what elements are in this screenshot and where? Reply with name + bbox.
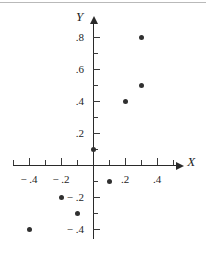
y-tick — [93, 117, 98, 118]
data-point — [59, 195, 64, 200]
scatter-plot-figure: X Y − .4− .2.2.4.8.6.4.2− .2− .4 — [0, 0, 206, 260]
data-point — [123, 99, 128, 104]
x-tick — [61, 158, 62, 165]
data-point — [91, 147, 96, 152]
x-tick — [13, 160, 14, 165]
plot-area: X Y − .4− .2.2.4.8.6.4.2− .2− .4 — [0, 0, 206, 260]
y-tick — [93, 53, 98, 54]
x-tick — [157, 158, 158, 165]
y-tick — [93, 37, 100, 38]
x-tick — [141, 160, 142, 165]
data-point — [139, 35, 144, 40]
x-tick — [125, 158, 126, 165]
y-axis-label: Y — [76, 10, 83, 23]
x-tick-label: .2 — [121, 174, 129, 185]
x-axis-label: X — [187, 155, 195, 168]
y-tick-label: .6 — [76, 64, 84, 75]
y-tick-label: .8 — [76, 32, 84, 43]
y-tick — [93, 181, 98, 182]
x-tick — [77, 160, 78, 165]
data-point — [75, 211, 80, 216]
y-tick — [93, 197, 100, 198]
x-tick — [173, 160, 174, 165]
x-axis-line — [13, 165, 176, 166]
y-axis-arrow — [90, 16, 98, 24]
y-tick — [93, 85, 98, 86]
data-point — [107, 179, 112, 184]
y-tick-label: .2 — [76, 128, 84, 139]
y-tick-label: − .4 — [67, 224, 84, 235]
y-tick-label: .4 — [76, 96, 84, 107]
x-tick — [109, 160, 110, 165]
y-tick — [93, 229, 100, 230]
x-tick-label: − .4 — [20, 174, 37, 185]
x-tick — [45, 160, 46, 165]
x-tick-label: − .2 — [52, 174, 69, 185]
y-tick — [93, 69, 100, 70]
y-axis-line — [93, 24, 94, 238]
y-tick-label: − .2 — [67, 192, 84, 203]
data-point — [139, 83, 144, 88]
x-tick-label: .4 — [153, 174, 161, 185]
x-tick — [29, 158, 30, 165]
x-axis-arrow — [176, 162, 184, 170]
y-tick — [93, 133, 100, 134]
data-point — [27, 227, 32, 232]
y-tick — [93, 101, 100, 102]
y-tick — [93, 213, 98, 214]
